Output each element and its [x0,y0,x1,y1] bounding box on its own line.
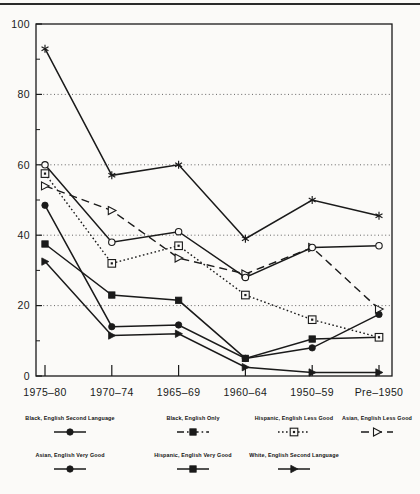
data-point-open-triangle-right [175,254,183,262]
data-point-open-triangle-right [374,428,382,436]
legend-label: Black, English Second Language [25,415,114,421]
series-6 [42,45,383,243]
data-point-open-square [41,170,49,178]
data-point-filled-circle [175,322,181,328]
data-point-filled-circle [42,202,48,208]
legend-label: Hispanic, English Less Good [255,415,333,421]
data-point-filled-triangle-right [109,332,116,339]
data-point-open-square [375,333,383,341]
data-point-filled-circle [67,429,73,435]
y-tick-label: 100 [11,18,30,30]
legend-item[interactable]: Hispanic, English Less Good [255,415,333,436]
legend-item[interactable]: Hispanic, English Very Good [154,452,231,472]
series-line [45,262,379,373]
legend-item[interactable]: Black, English Only [166,415,219,435]
plot-area-border [36,24,392,376]
data-point-open-circle [175,228,181,234]
data-point-open-square [242,291,250,299]
y-tick-label: 0 [24,370,30,382]
y-axis-tick-labels: 020406080100 [11,18,30,382]
data-point-open-triangle-right [108,207,116,215]
x-tick-label-3: 1960–64 [224,386,268,398]
data-point-filled-circle [309,345,315,351]
data-point-open-circle [42,162,48,168]
x-tick-label-0: 1975–80 [23,386,67,398]
data-point-filled-circle [109,324,115,330]
data-point-open-square [175,242,183,250]
data-point-open-square [290,428,298,436]
legend-label: Asian, English Less Good [342,415,412,421]
series-5 [42,258,383,376]
legend-label: Hispanic, English Very Good [154,452,231,458]
data-point-filled-square [242,355,248,361]
y-tick-label: 60 [18,159,30,171]
x-axis-tick-labels: 1975–801970–741965–691960–641950–59Pre–1… [23,386,403,398]
series-line [45,49,379,239]
y-tick-label: 20 [18,299,30,311]
legend-label: Asian, English Very Good [35,452,104,458]
top-rule-divider [0,3,420,5]
x-tick-label-5: Pre–1950 [355,386,404,398]
legend-item[interactable]: Asian, English Less Good [342,415,412,436]
data-point-open-triangle-right [42,182,50,190]
axis-ticks [36,24,379,376]
data-point-open-square [308,316,316,324]
data-point-open-circle [242,274,248,280]
data-point-filled-square [190,466,196,472]
x-tick-label-4: 1950–59 [290,386,334,398]
y-tick-label: 40 [18,229,30,241]
legend-label: Black, English Only [166,415,219,421]
series-1 [42,241,382,362]
x-tick-label-2: 1965–69 [157,386,201,398]
data-point-open-circle [109,239,115,245]
x-tick-label-1: 1970–74 [90,386,134,398]
data-point-open-square [108,260,116,268]
chart-legend: Black, English Second LanguageBlack, Eng… [25,415,412,473]
data-point-filled-square [109,292,115,298]
legend-label: White, English Second Language [249,452,339,458]
data-point-open-circle [376,243,382,249]
series-line [45,165,379,278]
data-point-filled-square [309,336,315,342]
data-point-filled-square [42,241,48,247]
y-tick-label: 80 [18,88,30,100]
gridlines [36,94,392,305]
data-point-filled-triangle-right [291,465,298,472]
chart-figure: 020406080100 1975–801970–741965–691960–6… [0,0,420,494]
data-point-filled-triangle-right [175,330,182,337]
legend-item[interactable]: Asian, English Very Good [35,452,104,472]
data-point-asterisk [42,45,49,53]
series-0 [42,202,382,362]
data-point-filled-square [175,297,181,303]
series-4 [42,162,382,281]
legend-item[interactable]: White, English Second Language [249,452,339,473]
line-chart-canvas: 020406080100 1975–801970–741965–691960–6… [0,0,420,494]
legend-item[interactable]: Black, English Second Language [25,415,114,435]
data-point-filled-circle [67,466,73,472]
data-point-open-circle [309,244,315,250]
data-point-filled-square [190,429,196,435]
